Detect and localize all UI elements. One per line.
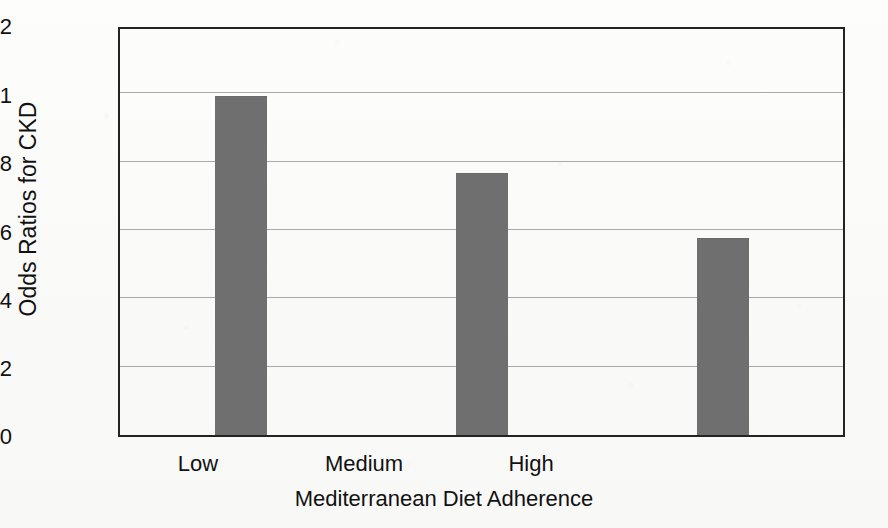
y-tick-label-1: 1 bbox=[0, 85, 12, 107]
y-tick-label-0.4: 0.4 bbox=[0, 290, 12, 312]
bar-low[interactable] bbox=[215, 96, 267, 435]
y-tick-label-0.6: 0.6 bbox=[0, 222, 12, 244]
bar-medium[interactable] bbox=[456, 173, 508, 435]
bar-high[interactable] bbox=[697, 238, 749, 435]
y-axis-title: Odds Ratios for CKD bbox=[15, 9, 41, 409]
y-tick-label-0.8: 0.8 bbox=[0, 153, 12, 175]
x-axis-title: Mediterranean Diet Adherence bbox=[0, 487, 888, 511]
y-tick-label-0.2: 0.2 bbox=[0, 358, 12, 380]
plot-area bbox=[118, 27, 845, 437]
y-tick-label-0: 0 bbox=[0, 426, 12, 448]
gridline-1.0 bbox=[120, 92, 843, 93]
y-tick-label-1.2: 1.2 bbox=[0, 16, 12, 38]
chart-figure: Odds Ratios for CKD 1.2 1 0.8 0.6 0.4 0.… bbox=[0, 0, 888, 528]
x-tick-label-high: High bbox=[431, 452, 631, 476]
